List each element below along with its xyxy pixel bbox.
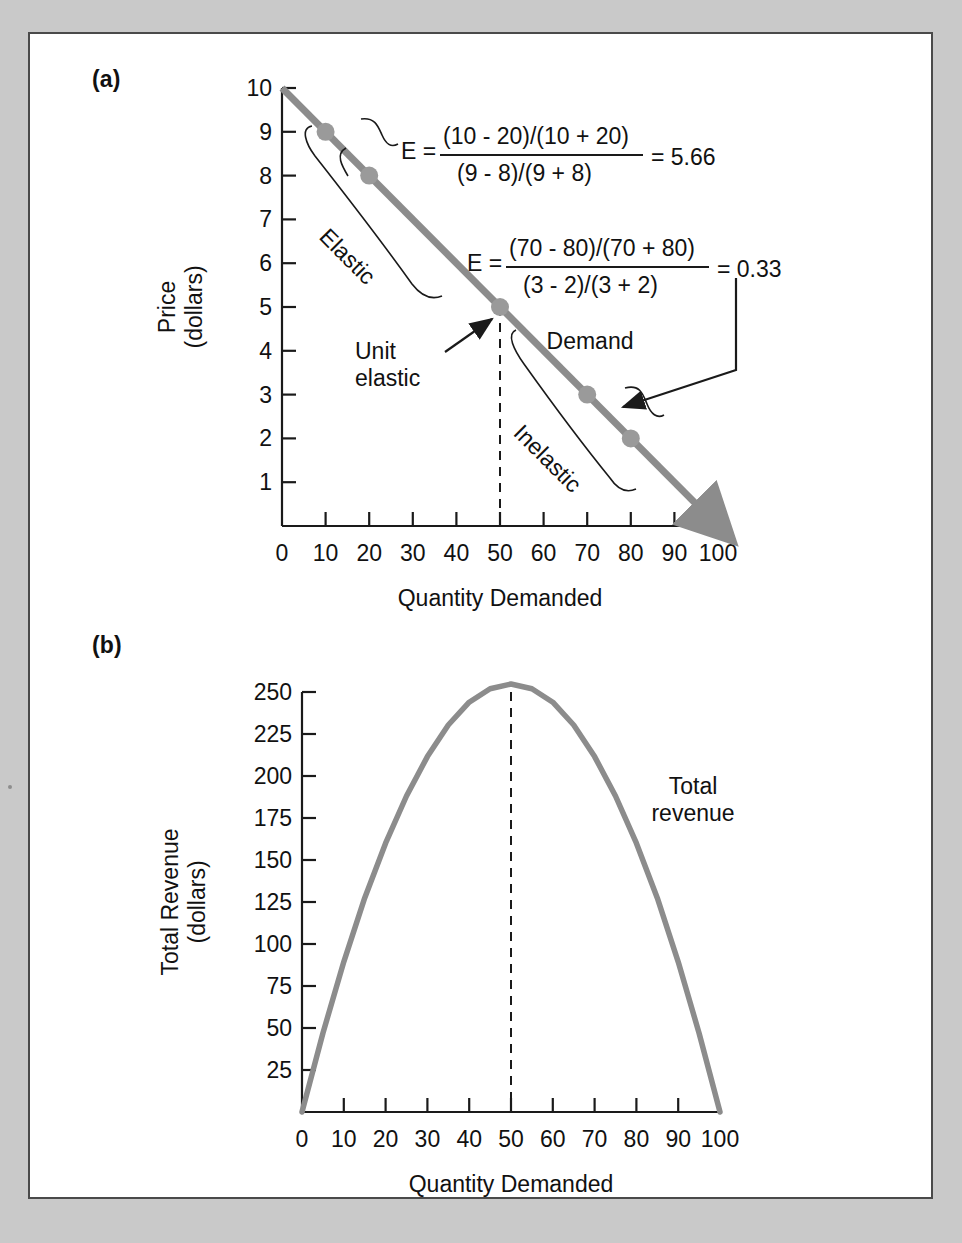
panel-b-ytick-25: 25 xyxy=(266,1057,292,1083)
panel-a-xtick-40: 40 xyxy=(444,540,470,566)
panel-b-xtick-100: 100 xyxy=(701,1126,739,1152)
panel-a-xtick-90: 90 xyxy=(662,540,688,566)
panel-b-ytick-50: 50 xyxy=(266,1015,292,1041)
formula-bottom-denominator: (3 - 2)/(3 + 2) xyxy=(523,272,658,298)
panel-b-xtick-80: 80 xyxy=(624,1126,650,1152)
panel-b-chart: 250 225 200 175 150 125 100 75 50 25 xyxy=(30,614,935,1199)
demand-label: Demand xyxy=(547,328,634,354)
total-revenue-label-line2: revenue xyxy=(651,800,734,826)
panel-a-xtick-80: 80 xyxy=(618,540,644,566)
panel-a-ytick-10: 10 xyxy=(246,75,272,101)
panel-b-xtick-70: 70 xyxy=(582,1126,608,1152)
elastic-upper-tick-brace xyxy=(361,119,398,146)
panel-b-ytick-250: 250 xyxy=(254,679,292,705)
panel-a-xtick-20: 20 xyxy=(356,540,382,566)
panel-a-chart: 10 9 8 7 6 5 4 3 2 1 0 xyxy=(30,34,935,614)
page-speck xyxy=(8,785,12,789)
panel-b-ytick-175: 175 xyxy=(254,805,292,831)
panel-a-ytick-2: 2 xyxy=(259,425,272,451)
panel-b-xtick-0: 0 xyxy=(296,1126,309,1152)
panel-b-xtick-50: 50 xyxy=(498,1126,524,1152)
panel-b-xtick-40: 40 xyxy=(456,1126,482,1152)
panel-b-yaxis-title-line1: Total Revenue xyxy=(157,828,183,975)
panel-b-xtick-10: 10 xyxy=(331,1126,357,1152)
panel-b-yaxis-title-line2: (dollars) xyxy=(184,860,210,943)
panel-b-ytick-100: 100 xyxy=(254,931,292,957)
panel-a-xtick-10: 10 xyxy=(313,540,339,566)
demand-point-q50-p5 xyxy=(491,298,509,316)
panel-a-ytick-7: 7 xyxy=(259,206,272,232)
panel-a-xtick-30: 30 xyxy=(400,540,426,566)
panel-a-ytick-4: 4 xyxy=(259,338,272,364)
formula-bottom-lhs: E = xyxy=(467,250,502,276)
panel-a-ytick-8: 8 xyxy=(259,163,272,189)
panel-b-ytick-200: 200 xyxy=(254,763,292,789)
panel-b-xtick-60: 60 xyxy=(540,1126,566,1152)
formula-top-numerator: (10 - 20)/(10 + 20) xyxy=(443,123,629,149)
elastic-label: Elastic xyxy=(315,223,381,289)
demand-point-q10-p9 xyxy=(317,123,335,141)
panel-a-xtick-60: 60 xyxy=(531,540,557,566)
panel-b-xtick-90: 90 xyxy=(665,1126,691,1152)
panel-b-xaxis-title: Quantity Demanded xyxy=(409,1171,614,1197)
formula-top-denominator: (9 - 8)/(9 + 8) xyxy=(457,160,592,186)
panel-a-ytick-9: 9 xyxy=(259,119,272,145)
unit-elastic-label-line2: elastic xyxy=(355,365,420,391)
panel-a-yaxis-title-line2: (dollars) xyxy=(181,265,207,348)
panel-a-xtick-70: 70 xyxy=(574,540,600,566)
demand-point-q70-p3 xyxy=(578,386,596,404)
demand-point-q20-p8 xyxy=(360,167,378,185)
unit-elastic-label-line1: Unit xyxy=(355,338,397,364)
panel-a-xaxis-title: Quantity Demanded xyxy=(398,585,603,611)
inelastic-point-brace xyxy=(625,387,664,416)
panel-b-ytick-125: 125 xyxy=(254,889,292,915)
demand-point-q80-p2 xyxy=(622,429,640,447)
panel-a-xtick-0: 0 xyxy=(276,540,289,566)
panel-a-ytick-1: 1 xyxy=(259,469,272,495)
panel-a-y-ticks xyxy=(282,88,296,482)
total-revenue-label-line1: Total xyxy=(669,773,718,799)
figure-background: (a) 10 9 8 xyxy=(0,0,962,1243)
panel-a-ytick-3: 3 xyxy=(259,382,272,408)
panel-a-xtick-50: 50 xyxy=(487,540,513,566)
panel-a-ytick-5: 5 xyxy=(259,294,272,320)
panel-b-ytick-75: 75 xyxy=(266,973,292,999)
inelastic-label: Inelastic xyxy=(509,419,587,497)
panel-a-formula-top: E = (10 - 20)/(10 + 20) (9 - 8)/(9 + 8) … xyxy=(401,123,716,186)
panel-a-ytick-6: 6 xyxy=(259,250,272,276)
panel-b-xtick-30: 30 xyxy=(415,1126,441,1152)
panel-b-xtick-20: 20 xyxy=(373,1126,399,1152)
panel-a-yaxis-title-line1: Price xyxy=(154,281,180,333)
panel-b-ytick-150: 150 xyxy=(254,847,292,873)
panel-b-ytick-225: 225 xyxy=(254,721,292,747)
panel-a-xtick-100: 100 xyxy=(699,540,737,566)
formula-bottom-numerator: (70 - 80)/(70 + 80) xyxy=(509,235,695,261)
unit-elastic-arrow xyxy=(445,319,492,352)
panel-b-y-ticks xyxy=(302,692,316,1070)
formula-top-result: = 5.66 xyxy=(651,144,716,170)
panel-a-formula-bottom: E = (70 - 80)/(70 + 80) (3 - 2)/(3 + 2) … xyxy=(467,235,782,298)
formula-bottom-result: = 0.33 xyxy=(717,256,782,282)
figure-panel: (a) 10 9 8 xyxy=(28,32,933,1199)
formula-top-lhs: E = xyxy=(401,138,436,164)
